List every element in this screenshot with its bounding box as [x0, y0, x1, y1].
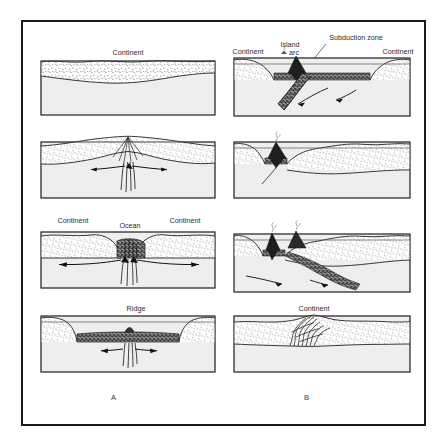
panel-b2 — [226, 128, 418, 208]
continent-label: Continent — [299, 304, 330, 313]
ridge-label: Ridge — [127, 304, 146, 313]
oceanic-crust — [77, 332, 179, 342]
cross-section-b4 — [234, 315, 410, 372]
cross-section-b3 — [234, 221, 410, 293]
column-label-a: A — [111, 393, 116, 402]
panel-a3: Continent Ocean Continent — [33, 214, 223, 296]
ocean-label: Ocean — [119, 221, 140, 230]
column-label-b: B — [304, 393, 309, 402]
subduction-zone-label: Subduction zone — [329, 33, 383, 42]
continent-left-label: Continent — [58, 216, 89, 225]
volcano-right-smoke-plume — [296, 221, 300, 231]
cross-section-a3 — [41, 232, 215, 288]
oceanic-crust — [117, 239, 145, 258]
arc-label: arc — [289, 48, 299, 57]
continent-right-label: Continent — [170, 216, 201, 225]
cross-section-a2 — [41, 136, 215, 198]
continent-label: Continent — [113, 48, 144, 57]
continent-right-label: Continent — [383, 47, 414, 56]
panel-b4: Continent — [226, 302, 418, 382]
cross-section-a4 — [41, 316, 215, 372]
figure-frame: Continent — [21, 20, 426, 426]
panel-a4: Ridge — [33, 302, 223, 382]
panel-a1: Continent — [33, 46, 223, 118]
panel-b1: Subduction zone Continent Island arc Con… — [226, 32, 418, 122]
oceanic-crust — [274, 73, 370, 80]
volcano-smoke-plume — [276, 132, 280, 142]
cross-section-b2 — [234, 132, 410, 199]
cross-section-a1 — [41, 61, 215, 115]
panel-b3 — [226, 214, 418, 300]
continent-left-label: Continent — [233, 47, 264, 56]
panel-grid: Continent — [23, 22, 424, 424]
volcano-left-smoke-plume — [272, 223, 276, 233]
cross-section-b1 — [234, 56, 410, 116]
panel-a2 — [33, 128, 223, 208]
